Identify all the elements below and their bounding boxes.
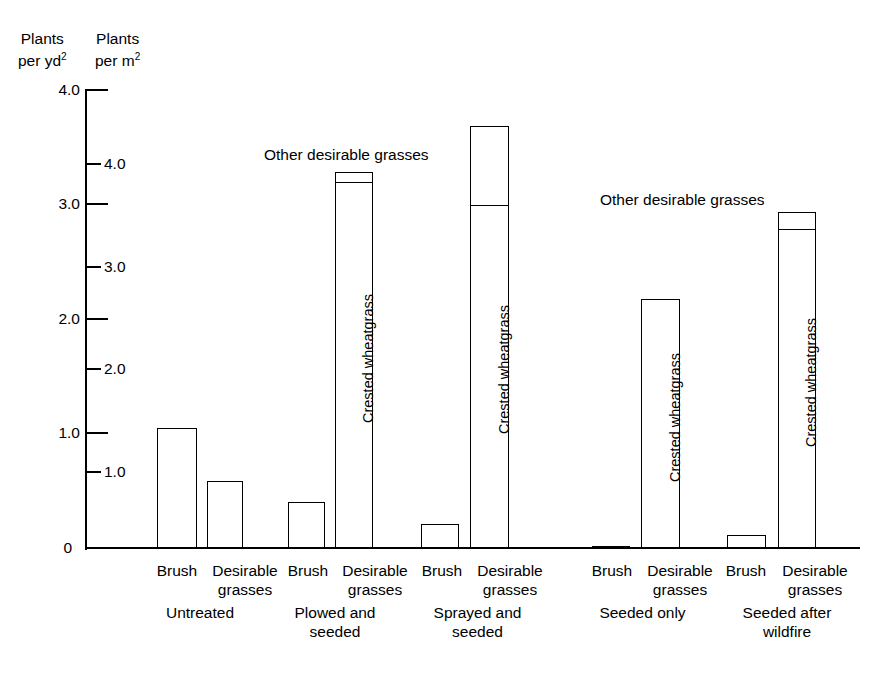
xlabel-sprayed-desirable: Desirable grasses bbox=[460, 561, 560, 599]
bar-seeded-only-brush[interactable] bbox=[592, 546, 630, 548]
bar-plowed-crested-wheatgrass-label: Crested wheatgrass bbox=[361, 294, 376, 423]
right-axis-title-exponent: 2 bbox=[135, 51, 141, 62]
xlabel-wildfire-desirable-line2: grasses bbox=[765, 580, 865, 599]
bar-sprayed-crested-wheatgrass-segment[interactable]: Crested wheatgrass bbox=[470, 205, 509, 548]
xlabel-sprayed-desirable-line2: grasses bbox=[460, 580, 560, 599]
xlabel-wildfire-desirable-line1: Desirable bbox=[765, 561, 865, 580]
group-label-plowed-and-seeded-line2: seeded bbox=[270, 622, 400, 641]
bar-sprayed-other-grasses-segment[interactable] bbox=[470, 126, 509, 206]
bar-wildfire-crested-wheatgrass-label: Crested wheatgrass bbox=[804, 318, 819, 447]
y-axis-label-right-2: 2.0 bbox=[104, 361, 126, 376]
y-axis-tick-left-2 bbox=[86, 318, 108, 320]
left-axis-title-line1: Plants bbox=[18, 30, 67, 48]
left-axis-title: Plants per yd2 bbox=[18, 30, 67, 70]
group-label-plowed-and-seeded: Plowed and seeded bbox=[270, 603, 400, 641]
group-label-untreated-line1: Untreated bbox=[140, 603, 260, 622]
y-axis-label-left-1: 1.0 bbox=[20, 425, 80, 440]
chart-container: Plants per yd2 Plants per m2 4.0 3.0 2.0… bbox=[0, 0, 876, 675]
left-axis-title-exponent: 2 bbox=[61, 51, 67, 62]
group-label-plowed-and-seeded-line1: Plowed and bbox=[270, 603, 400, 622]
group-label-seeded-after-wildfire: Seeded after wildfire bbox=[712, 603, 862, 641]
bar-sprayed-brush[interactable] bbox=[421, 524, 459, 548]
y-axis-label-left-3: 3.0 bbox=[20, 196, 80, 211]
y-axis-tick-right-3 bbox=[86, 266, 101, 268]
bar-untreated-desirable[interactable] bbox=[207, 481, 243, 548]
y-axis-tick-left-1 bbox=[86, 432, 108, 434]
left-axis-title-line2: per yd2 bbox=[18, 48, 67, 70]
y-axis-label-left-4: 4.0 bbox=[20, 82, 80, 97]
xlabel-plowed-desirable-line2: grasses bbox=[325, 580, 425, 599]
group-label-seeded-only: Seeded only bbox=[570, 603, 715, 622]
bar-wildfire-crested-wheatgrass-segment[interactable]: Crested wheatgrass bbox=[778, 229, 816, 548]
group-label-untreated: Untreated bbox=[140, 603, 260, 622]
bar-plowed-crested-wheatgrass-segment[interactable]: Crested wheatgrass bbox=[335, 182, 373, 548]
group-label-seeded-after-wildfire-line1: Seeded after bbox=[712, 603, 862, 622]
bar-seeded-only-crested-wheatgrass-label: Crested wheatgrass bbox=[668, 353, 683, 482]
annotation-other-desirable-grasses-plowed: Other desirable grasses bbox=[264, 147, 429, 163]
y-axis-tick-left-4 bbox=[86, 89, 108, 91]
right-axis-title: Plants per m2 bbox=[95, 30, 140, 70]
y-axis-label-left-0: 0 bbox=[20, 540, 72, 555]
group-label-sprayed-and-seeded-line2: seeded bbox=[410, 622, 545, 641]
y-axis-label-right-1: 1.0 bbox=[104, 464, 126, 479]
bar-wildfire-other-grasses-segment[interactable] bbox=[778, 212, 816, 230]
y-axis-label-left-2: 2.0 bbox=[20, 311, 80, 326]
group-label-sprayed-and-seeded: Sprayed and seeded bbox=[410, 603, 545, 641]
xlabel-sprayed-desirable-line1: Desirable bbox=[460, 561, 560, 580]
y-axis-tick-left-3 bbox=[86, 203, 108, 205]
bar-plowed-brush[interactable] bbox=[288, 502, 325, 548]
group-label-sprayed-and-seeded-line1: Sprayed and bbox=[410, 603, 545, 622]
group-label-seeded-only-line1: Seeded only bbox=[570, 603, 715, 622]
bar-untreated-brush[interactable] bbox=[157, 428, 197, 548]
xlabel-seeded-only-desirable-line2: grasses bbox=[630, 580, 730, 599]
bar-wildfire-brush[interactable] bbox=[727, 535, 766, 548]
y-axis-tick-right-2 bbox=[86, 368, 101, 370]
right-axis-title-line2: per m2 bbox=[95, 48, 140, 70]
y-axis-label-right-3: 3.0 bbox=[104, 259, 126, 274]
xlabel-wildfire-desirable: Desirable grasses bbox=[765, 561, 865, 599]
bar-sprayed-crested-wheatgrass-label: Crested wheatgrass bbox=[497, 305, 512, 434]
group-label-seeded-after-wildfire-line2: wildfire bbox=[712, 622, 862, 641]
right-axis-title-line1: Plants bbox=[95, 30, 140, 48]
y-axis-tick-right-1 bbox=[86, 471, 101, 473]
y-axis-label-right-4: 4.0 bbox=[104, 156, 126, 171]
y-axis-tick-right-4 bbox=[86, 163, 101, 165]
xlabel-untreated-desirable-line2: grasses bbox=[195, 580, 295, 599]
bar-seeded-only-crested-wheatgrass[interactable]: Crested wheatgrass bbox=[641, 299, 680, 548]
annotation-other-desirable-grasses-wildfire: Other desirable grasses bbox=[600, 192, 765, 208]
